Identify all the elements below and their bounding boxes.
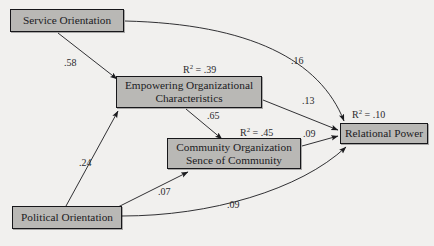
coefficient-empower-to-relational: .13 xyxy=(302,95,315,106)
r-squared-equals: = xyxy=(193,64,204,75)
coefficient-political-to-relational: .09 xyxy=(227,199,240,210)
path-political-to-community xyxy=(114,172,188,209)
r-squared-empowering-organizational-characteristics: R2 = .39 xyxy=(183,63,216,75)
r-squared-symbol: R xyxy=(183,64,190,75)
node-relational-power[interactable]: Relational Power xyxy=(340,123,428,144)
path-empower-to-relational xyxy=(263,100,338,130)
node-political-orientation[interactable]: Political Orientation xyxy=(12,206,122,229)
coefficient-empower-to-community: .65 xyxy=(207,110,220,121)
r-squared-relational-power: R2 = .10 xyxy=(352,108,385,120)
coefficient-service-to-empower: .58 xyxy=(64,57,77,68)
coefficient-political-to-empower: .24 xyxy=(79,157,92,168)
node-relational-power-label: Relational Power xyxy=(345,127,423,140)
coefficient-service-to-relational: .16 xyxy=(291,55,304,66)
r-squared-symbol: R xyxy=(352,109,359,120)
r-squared-value: .45 xyxy=(261,127,274,138)
node-political-orientation-label: Political Orientation xyxy=(21,211,113,224)
node-community-organization-sense-of-community[interactable]: Community Organization Sence of Communit… xyxy=(167,138,301,169)
node-service-orientation[interactable]: Service Orientation xyxy=(10,9,124,32)
path-political-to-empower xyxy=(66,111,118,206)
path-diagram-canvas: Service Orientation Empowering Organizat… xyxy=(0,0,434,246)
r-squared-equals: = xyxy=(362,109,373,120)
r-squared-symbol: R xyxy=(240,127,247,138)
node-community-organization-sense-of-community-label: Community Organization Sence of Communit… xyxy=(176,141,292,166)
r-squared-community-organization-sense-of-community: R2 = .45 xyxy=(240,126,273,138)
coefficient-community-to-relational: .09 xyxy=(303,128,316,139)
node-service-orientation-label: Service Orientation xyxy=(23,14,111,27)
node-empowering-organizational-characteristics-label: Empowering Organizational Characteristic… xyxy=(125,79,253,104)
path-service-to-empower xyxy=(58,33,117,79)
r-squared-equals: = xyxy=(250,127,261,138)
r-squared-value: .39 xyxy=(204,64,217,75)
coefficient-political-to-community: .07 xyxy=(158,186,171,197)
node-empowering-organizational-characteristics[interactable]: Empowering Organizational Characteristic… xyxy=(116,76,262,108)
r-squared-value: .10 xyxy=(373,109,386,120)
